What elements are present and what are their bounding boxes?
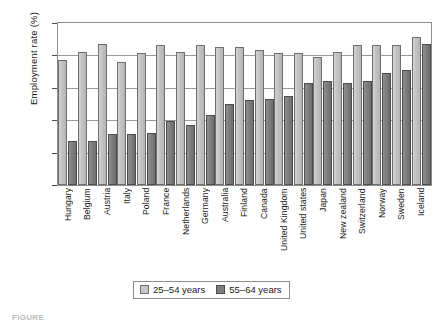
bar <box>245 100 254 185</box>
bar <box>108 134 117 185</box>
bar <box>206 115 215 185</box>
bar <box>323 81 332 185</box>
bar <box>294 53 303 185</box>
x-axis-label: Finland <box>239 188 249 266</box>
bar <box>265 99 274 185</box>
bar-group <box>235 23 254 185</box>
bar <box>58 60 67 185</box>
bar <box>176 52 185 185</box>
bar <box>392 45 401 185</box>
legend-item-25-54: 25–54 years <box>140 284 205 295</box>
bar <box>196 45 205 185</box>
bar-group <box>78 23 97 185</box>
x-axis-label: Japan <box>318 188 328 266</box>
y-axis-title: Employment rate (%) <box>28 0 39 139</box>
bar <box>215 47 224 185</box>
bar <box>137 53 146 185</box>
bar-group <box>58 23 77 185</box>
x-axis-label: Germany <box>200 188 210 266</box>
chart-legend: 25–54 years 55–64 years <box>133 281 290 299</box>
x-axis-label: Australia <box>220 188 230 266</box>
legend-label-25-54: 25–54 years <box>153 284 205 295</box>
bar-group <box>274 23 293 185</box>
bar <box>225 104 234 185</box>
bar-group <box>98 23 117 185</box>
bar-group <box>392 23 411 185</box>
bar <box>68 141 77 185</box>
bar-group <box>117 23 136 185</box>
x-axis-label: Italy <box>122 188 132 266</box>
bar-groups <box>58 23 431 185</box>
bar <box>343 83 352 185</box>
x-axis-label: United Kingdom <box>279 188 289 266</box>
bar <box>313 57 322 185</box>
x-axis-label: France <box>161 188 171 266</box>
bar <box>235 47 244 185</box>
bar <box>274 53 283 185</box>
bar <box>88 141 97 185</box>
employment-rate-bar-chart: Employment rate (%) 020406080100 Hungary… <box>0 0 447 322</box>
bar-group <box>137 23 156 185</box>
bar-group <box>313 23 332 185</box>
legend-label-55-64: 55–64 years <box>229 284 281 295</box>
x-axis-label: Sweden <box>396 188 406 266</box>
bar <box>372 45 381 185</box>
x-axis-label: Iceland <box>416 188 426 266</box>
bar <box>147 133 156 185</box>
bar-group <box>255 23 274 185</box>
bar-group <box>412 23 431 185</box>
bar <box>422 44 431 185</box>
bar <box>255 50 264 185</box>
bar-group <box>372 23 391 185</box>
x-axis-label: Norway <box>377 188 387 266</box>
x-axis-category-labels: HungaryBelgiumAustriaItalyPolandFranceNe… <box>58 188 431 266</box>
bar <box>186 125 195 185</box>
x-axis-label: Netherlands <box>181 188 191 266</box>
bar-group <box>156 23 175 185</box>
bar <box>117 62 126 186</box>
bar <box>353 45 362 185</box>
bar <box>156 45 165 185</box>
x-axis-label: Canada <box>259 188 269 266</box>
bar <box>382 73 391 185</box>
x-axis-label: New zealand <box>338 188 348 266</box>
bar <box>402 70 411 185</box>
bar <box>284 96 293 185</box>
bar <box>98 44 107 185</box>
bar <box>333 52 342 185</box>
x-axis-label: Austria <box>102 188 112 266</box>
bar-group <box>294 23 313 185</box>
x-axis-label: Poland <box>141 188 151 266</box>
x-axis-label: Switzerland <box>357 188 367 266</box>
legend-swatch-25-54-icon <box>140 285 149 294</box>
bar <box>304 83 313 185</box>
legend-swatch-55-64-icon <box>216 285 225 294</box>
bar-group <box>333 23 352 185</box>
bar <box>412 37 421 185</box>
bar <box>166 121 175 185</box>
bar <box>363 81 372 185</box>
x-axis-label: United states <box>298 188 308 266</box>
x-axis-label: Hungary <box>63 188 73 266</box>
bar-group <box>176 23 195 185</box>
bar-group <box>215 23 234 185</box>
x-axis-label: Belgium <box>82 188 92 266</box>
bar <box>78 52 87 185</box>
bar-group <box>353 23 372 185</box>
figure-caption: FIGURE <box>12 313 44 322</box>
legend-item-55-64: 55–64 years <box>216 284 281 295</box>
bar <box>127 134 136 185</box>
bar-group <box>196 23 215 185</box>
